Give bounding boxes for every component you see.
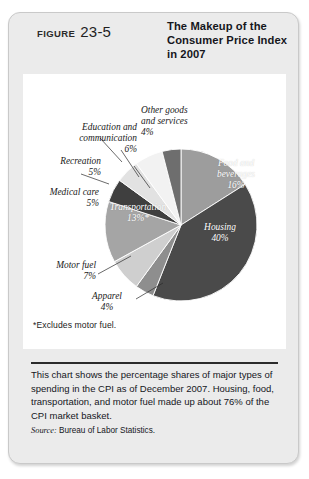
- slice-label-food-and-beverages: Food and beverages 16%: [198, 158, 274, 191]
- pie-footnote: *Excludes motor fuel.: [33, 320, 116, 330]
- source-value: Bureau of Labor Statistics.: [59, 426, 155, 435]
- caption-block: This chart shows the percentage shares o…: [31, 368, 281, 436]
- caption-divider: [31, 362, 278, 364]
- figure-card: FIGURE 23-5 The Makeup of the Consumer P…: [8, 12, 299, 464]
- figure-label-word: FIGURE: [37, 28, 75, 39]
- figure-title: The Makeup of the Consumer Price Index i…: [167, 19, 293, 62]
- callout-recreation: Recreation 5%: [37, 156, 101, 178]
- source-label: Source:: [31, 426, 57, 435]
- pie-chart: Education and communication 6% Other goo…: [23, 74, 286, 349]
- caption-text: This chart shows the percentage shares o…: [31, 368, 281, 422]
- callout-motor-fuel: Motor fuel 7%: [28, 260, 96, 282]
- figure-header: FIGURE 23-5 The Makeup of the Consumer P…: [9, 13, 299, 75]
- callout-other-goods-and-services: Other goods and services 4%: [141, 105, 221, 137]
- figure-tag: FIGURE 23-5: [37, 23, 157, 40]
- source-line: Source: Bureau of Labor Statistics.: [31, 425, 281, 436]
- callout-education-and-communication: Education and communication 6%: [45, 122, 137, 154]
- figure-number: 23-5: [80, 23, 111, 40]
- slice-label-transportation: Transportation 13%*: [96, 202, 180, 224]
- slice-label-housing: Housing 40%: [189, 222, 251, 244]
- chart-plate: Education and communication 6% Other goo…: [23, 74, 286, 349]
- callout-medical-care: Medical care 5%: [23, 187, 99, 209]
- callout-apparel: Apparel 4%: [78, 291, 136, 313]
